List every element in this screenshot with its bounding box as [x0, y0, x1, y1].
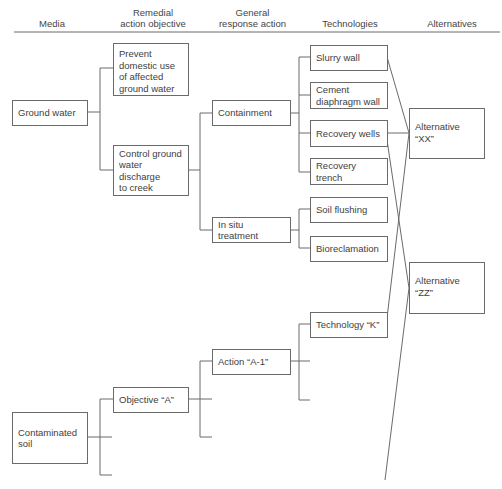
node-ground-water: Ground water [12, 100, 88, 126]
node-slurry-wall: Slurry wall [310, 45, 388, 71]
header-alternatives-label: Alternatives [427, 18, 477, 29]
node-bioreclamation: Bioreclamation [310, 236, 388, 262]
node-prevent-domestic-use: Prevent domestic use of affected ground … [113, 43, 189, 96]
node-technology-k-label: Technology “K” [316, 319, 379, 331]
node-control-label: Control ground water discharge to creek [119, 148, 183, 194]
node-action-a1: Action “A-1” [212, 349, 291, 375]
node-in-situ-label: In situ treatment [218, 219, 258, 242]
node-recovery-wells-label: Recovery wells [316, 128, 380, 140]
node-objective-a: Objective “A” [113, 387, 189, 413]
node-prevent-label: Prevent domestic use of affected ground … [119, 48, 175, 94]
node-slurry-wall-label: Slurry wall [316, 52, 360, 64]
node-recovery-wells: Recovery wells [310, 120, 388, 147]
node-alternative-zz: Alternative “ZZ” [409, 262, 485, 314]
node-containment: Containment [212, 100, 291, 126]
node-control-discharge: Control ground water discharge to creek [113, 145, 189, 196]
node-objective-a-label: Objective “A” [119, 394, 174, 406]
header-objective: Remedial action objective [108, 7, 198, 29]
node-containment-label: Containment [218, 107, 272, 119]
header-alternatives: Alternatives [412, 18, 492, 29]
node-contaminated-soil: Contaminated soil [12, 412, 88, 464]
node-alternative-xx-label: Alternative “XX” [415, 121, 460, 144]
node-alternative-xx: Alternative “XX” [409, 108, 485, 159]
node-alternative-zz-label: Alternative “ZZ” [415, 275, 460, 298]
header-response-label: General response action [219, 7, 286, 29]
header-technologies: Technologies [310, 18, 390, 29]
node-cement-diaphragm-wall: Cement diaphragm wall [310, 82, 388, 109]
node-action-a1-label: Action “A-1” [218, 356, 268, 368]
node-recovery-trench-label: Recovery trench [316, 160, 356, 183]
node-in-situ-treatment: In situ treatment [212, 217, 291, 243]
node-recovery-trench: Recovery trench [310, 158, 388, 185]
header-media: Media [22, 18, 82, 29]
node-cement-label: Cement diaphragm wall [316, 84, 380, 107]
header-media-label: Media [39, 18, 65, 29]
node-soil-flushing: Soil flushing [310, 197, 388, 223]
header-objective-label: Remedial action objective [120, 7, 185, 29]
node-ground-water-label: Ground water [18, 107, 76, 119]
node-soil-flushing-label: Soil flushing [316, 204, 367, 216]
header-response: General response action [205, 7, 300, 29]
node-technology-k: Technology “K” [310, 312, 388, 338]
node-contaminated-soil-label: Contaminated soil [18, 427, 77, 450]
node-bioreclamation-label: Bioreclamation [316, 243, 379, 255]
header-technologies-label: Technologies [322, 18, 377, 29]
